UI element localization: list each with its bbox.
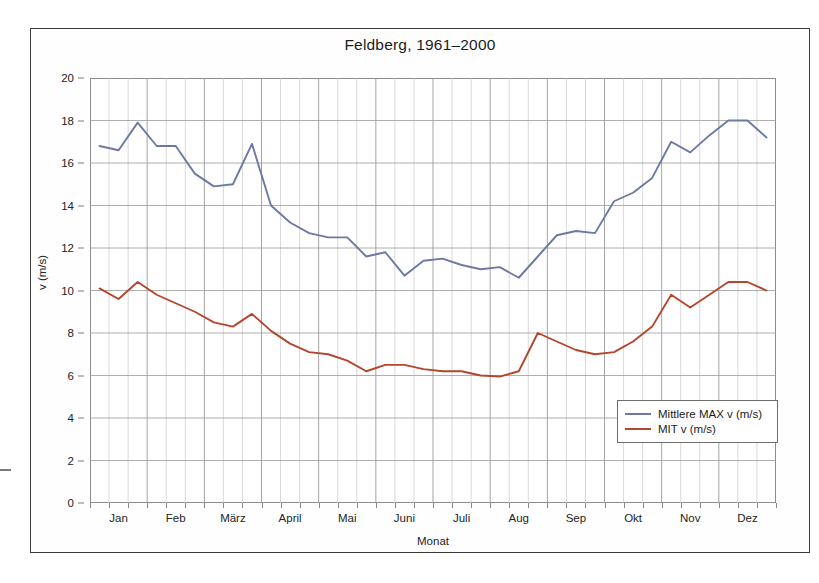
y-tick-mark <box>78 418 84 419</box>
x-tick-mark <box>566 503 567 508</box>
x-tick-mark <box>471 503 472 508</box>
y-tick-label: 16 <box>61 157 74 169</box>
x-month-label: Dez <box>737 512 757 524</box>
x-tick-mark <box>452 503 453 508</box>
y-axis-label: v (m/s) <box>36 255 48 290</box>
x-tick-mark <box>414 503 415 508</box>
x-tick-mark <box>776 503 777 508</box>
y-tick-mark <box>78 205 84 206</box>
x-tick-mark <box>90 503 91 508</box>
x-tick-mark <box>300 503 301 508</box>
legend-item-max[interactable]: Mittlere MAX v (m/s) <box>625 406 770 421</box>
legend-label-max: Mittlere MAX v (m/s) <box>658 408 762 420</box>
x-tick-mark <box>223 503 224 508</box>
y-tick-mark <box>78 375 84 376</box>
x-tick-mark <box>719 503 720 508</box>
y-tick-mark <box>78 163 84 164</box>
y-tick-label: 10 <box>61 285 74 297</box>
x-tick-mark <box>166 503 167 508</box>
y-tick-label: 4 <box>68 412 74 424</box>
x-month-label: Juli <box>453 512 470 524</box>
x-month-label: Jan <box>109 512 128 524</box>
x-tick-mark <box>185 503 186 508</box>
x-tick-mark <box>585 503 586 508</box>
x-tick-mark <box>605 503 606 508</box>
x-month-label: Mai <box>338 512 357 524</box>
x-tick-mark <box>395 503 396 508</box>
x-month-label: Sep <box>566 512 586 524</box>
x-tick-mark <box>262 503 263 508</box>
x-tick-mark <box>643 503 644 508</box>
edge-artifact-mark <box>0 469 11 471</box>
x-tick-mark <box>528 503 529 508</box>
legend-item-mit[interactable]: MIT v (m/s) <box>625 421 770 436</box>
y-tick-label: 2 <box>68 455 74 467</box>
x-tick-mark <box>738 503 739 508</box>
x-month-label: März <box>220 512 246 524</box>
x-tick-mark <box>547 503 548 508</box>
x-tick-mark <box>624 503 625 508</box>
y-tick-mark <box>78 333 84 334</box>
x-month-label: Okt <box>624 512 642 524</box>
x-tick-mark <box>433 503 434 508</box>
x-month-label: Feb <box>166 512 186 524</box>
y-tick-label: 0 <box>68 497 74 509</box>
x-tick-mark <box>128 503 129 508</box>
x-tick-mark <box>204 503 205 508</box>
y-tick-mark <box>78 78 84 79</box>
x-month-label: April <box>279 512 302 524</box>
y-tick-label: 6 <box>68 370 74 382</box>
y-tick-label: 12 <box>61 242 74 254</box>
legend-swatch-max <box>625 413 651 415</box>
x-tick-mark <box>662 503 663 508</box>
y-tick-label: 8 <box>68 327 74 339</box>
y-tick-label: 20 <box>61 72 74 84</box>
y-tick-mark <box>78 290 84 291</box>
x-month-label: Aug <box>509 512 529 524</box>
x-axis-ticks: JanFebMärzAprilMaiJuniJuliAugSepOktNovDe… <box>90 503 776 525</box>
x-month-label: Juni <box>394 512 415 524</box>
y-tick-mark <box>78 248 84 249</box>
x-tick-mark <box>757 503 758 508</box>
y-tick-label: 14 <box>61 200 74 212</box>
legend-swatch-mit <box>625 428 651 430</box>
y-tick-label: 18 <box>61 115 74 127</box>
x-tick-mark <box>490 503 491 508</box>
x-tick-mark <box>376 503 377 508</box>
y-tick-mark <box>78 120 84 121</box>
y-axis-ticks: 20181614121086420 <box>30 78 84 503</box>
x-tick-mark <box>700 503 701 508</box>
x-axis-label: Monat <box>90 535 776 547</box>
y-tick-mark <box>78 460 84 461</box>
x-tick-mark <box>109 503 110 508</box>
x-tick-mark <box>509 503 510 508</box>
chart-title: Feldberg, 1961–2000 <box>30 36 810 54</box>
x-tick-mark <box>681 503 682 508</box>
x-tick-mark <box>242 503 243 508</box>
x-tick-mark <box>319 503 320 508</box>
chart-legend: Mittlere MAX v (m/s) MIT v (m/s) <box>617 400 778 443</box>
x-month-label: Nov <box>680 512 700 524</box>
y-tick-mark <box>78 503 84 504</box>
x-tick-mark <box>147 503 148 508</box>
x-tick-mark <box>281 503 282 508</box>
x-tick-mark <box>357 503 358 508</box>
legend-label-mit: MIT v (m/s) <box>658 423 716 435</box>
x-tick-mark <box>338 503 339 508</box>
